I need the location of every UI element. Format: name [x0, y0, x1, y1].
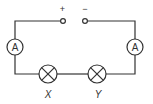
- wire-top-left: [15, 21, 61, 39]
- circuit-diagram: + − A A X Y: [0, 0, 153, 104]
- lamp-x-label: X: [44, 89, 52, 100]
- ammeter-left-symbol: A: [12, 42, 19, 53]
- wire-bottom-left: [15, 55, 39, 74]
- wire-top-right: [87, 21, 135, 39]
- lamp-y: Y: [88, 65, 106, 100]
- negative-label: −: [82, 4, 87, 14]
- positive-terminal-icon: [61, 19, 66, 24]
- positive-label: +: [60, 4, 65, 14]
- ammeter-right: A: [127, 39, 143, 55]
- ammeter-right-symbol: A: [132, 42, 139, 53]
- wire-bottom-right: [106, 55, 135, 74]
- ammeter-left: A: [7, 39, 23, 55]
- circuit-wires: [15, 21, 135, 74]
- lamp-x: X: [39, 65, 57, 100]
- supply-terminals: + −: [60, 4, 88, 23]
- negative-terminal-icon: [83, 19, 88, 24]
- lamp-y-label: Y: [95, 89, 103, 100]
